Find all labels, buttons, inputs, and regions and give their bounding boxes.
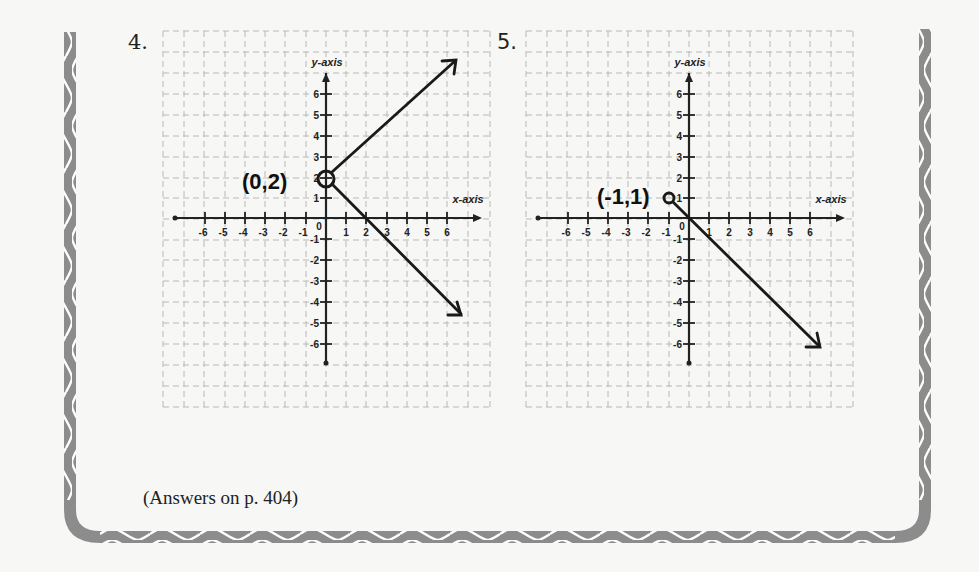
graph-problem-4: -6 -5 -4 -3 -2 -1 1 2 3 4 5 6 0 6 5 4 3 … [160, 28, 495, 412]
y-tick-label: -5 [673, 318, 682, 329]
x-tick-label: 5 [787, 227, 793, 238]
x-tick-label: -3 [622, 227, 631, 238]
x-tick-label: -2 [279, 227, 288, 238]
y-tick-label: 3 [676, 152, 682, 163]
origin-label: 0 [679, 221, 685, 232]
x-tick-label: -3 [259, 227, 268, 238]
x-tick-label: -5 [582, 227, 591, 238]
y-tick-label: 6 [676, 89, 682, 100]
x-axis-arrow-icon [836, 214, 845, 222]
y-tick-label: -4 [310, 297, 319, 308]
x-tick-label: -4 [239, 227, 248, 238]
y-axis-arrow-icon [685, 73, 693, 82]
solution-rays [332, 60, 461, 315]
x-axis-arrow-icon [473, 214, 482, 222]
x-tick-label: 4 [404, 227, 410, 238]
x-tick-label: 4 [767, 227, 773, 238]
x-tick-label: 2 [726, 227, 732, 238]
x-tick-label: -1 [662, 227, 671, 238]
x-tick-label: -5 [219, 227, 228, 238]
solution-rays [673, 202, 820, 347]
y-tick-label: 1 [313, 193, 319, 204]
y-axis-label: y-axis [310, 56, 342, 68]
y-tick-label: -6 [673, 339, 682, 350]
x-tick-label: -6 [199, 227, 208, 238]
x-tick-label: -4 [602, 227, 611, 238]
y-tick-label: 4 [676, 131, 682, 142]
y-tick-label: -5 [310, 318, 319, 329]
x-axis-label: x-axis [451, 193, 483, 205]
answers-reference: (Answers on p. 404) [143, 487, 298, 509]
x-axis-label: x-axis [814, 193, 846, 205]
x-tick-label: 2 [363, 227, 369, 238]
axes [175, 73, 480, 363]
x-tick-label: 3 [747, 227, 753, 238]
graph-problem-5: -6 -5 -4 -3 -2 -1 1 2 3 4 5 6 0 6 5 4 3 … [523, 28, 858, 412]
x-tick-label: 1 [343, 227, 349, 238]
x-tick-label: -6 [562, 227, 571, 238]
y-tick-label: 3 [313, 152, 319, 163]
y-tick-label: -2 [310, 255, 319, 266]
y-tick-label: 5 [313, 110, 319, 121]
y-tick-label: -6 [310, 339, 319, 350]
y-tick-label: -3 [310, 276, 319, 287]
origin-label: 0 [316, 221, 322, 232]
x-tick-label: 6 [807, 227, 813, 238]
x-tick-label: 6 [444, 227, 450, 238]
x-tick-label: 5 [424, 227, 430, 238]
y-tick-label: -3 [673, 276, 682, 287]
y-tick-label: 6 [313, 89, 319, 100]
vertex-annotation: (0,2) [242, 169, 287, 194]
y-tick-label: -2 [673, 255, 682, 266]
y-tick-label: 5 [676, 110, 682, 121]
y-tick-label: 4 [313, 131, 319, 142]
y-tick-label: 2 [676, 173, 682, 184]
x-tick-label: -1 [299, 227, 308, 238]
y-tick-label: -1 [310, 234, 319, 245]
problem-number-4: 4. [128, 30, 148, 54]
y-axis-label: y-axis [673, 56, 705, 68]
y-tick-label: -1 [673, 234, 682, 245]
vertex-annotation: (-1,1) [597, 184, 650, 209]
x-tick-label: -2 [642, 227, 651, 238]
y-axis-arrow-icon [322, 73, 330, 82]
problem-number-5: 5. [497, 30, 517, 54]
y-tick-label: 1 [676, 193, 682, 204]
y-tick-label: -4 [673, 297, 682, 308]
